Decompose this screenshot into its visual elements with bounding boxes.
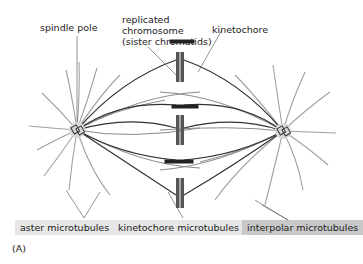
- label-kinetochore-microtubules: kinetochore microtubules: [113, 220, 244, 235]
- label-interpolar-microtubules: interpolar microtubules: [242, 220, 363, 235]
- label-replicated-3: (sister chromatids): [122, 36, 212, 47]
- spindle-pole-right: [275, 123, 291, 139]
- chromosomes: [176, 52, 184, 208]
- kinetochore-microtubules: [77, 60, 283, 195]
- label-spindle-pole: spindle pole: [40, 22, 98, 33]
- panel-label: (A): [12, 243, 26, 254]
- label-replicated-2: chromosome: [122, 25, 184, 36]
- label-kinetochore: kinetochore: [212, 24, 268, 35]
- label-aster-microtubules: aster microtubules: [15, 220, 114, 235]
- spindle-pole-left: [69, 122, 85, 138]
- label-replicated-1: replicated: [122, 14, 170, 25]
